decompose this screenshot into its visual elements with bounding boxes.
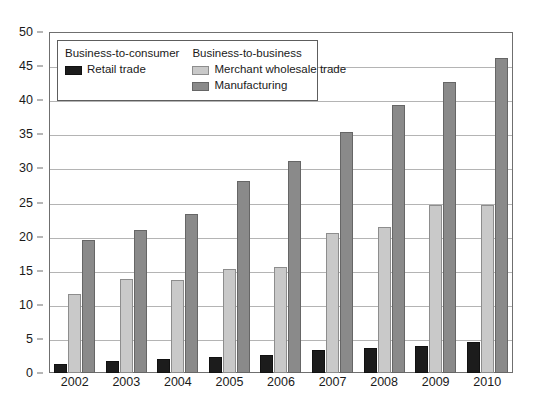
legend-column-2: Business-to-businessMerchant wholesale t… <box>192 46 346 96</box>
y-tick-label: 10 <box>19 299 33 312</box>
bar-group-2009 <box>410 32 462 373</box>
bar-manufacturing <box>392 105 405 373</box>
retail-swatch-icon <box>65 66 82 75</box>
x-tick-label: 2004 <box>164 376 192 389</box>
legend-heading: Business-to-business <box>192 46 346 60</box>
bar-merchant-wholesale-trade <box>120 279 133 373</box>
bar-manufacturing <box>134 230 147 373</box>
bar-merchant-wholesale-trade <box>223 269 236 373</box>
y-tick-label: 40 <box>19 94 33 107</box>
y-tick-mark <box>37 373 43 374</box>
bar-chart-figure: 05101520253035404550 2002200320042005200… <box>0 0 536 420</box>
bar-retail-trade <box>415 346 428 373</box>
bar-manufacturing <box>443 82 456 373</box>
bar-retail-trade <box>54 364 67 373</box>
bar-group-2008 <box>358 32 410 373</box>
y-tick-label: 0 <box>26 367 33 380</box>
bar-merchant-wholesale-trade <box>326 233 339 373</box>
x-tick-label: 2005 <box>216 376 244 389</box>
bar-retail-trade <box>209 357 222 373</box>
y-tick-label: 30 <box>19 162 33 175</box>
legend-label: Retail trade <box>87 63 146 77</box>
x-tick-label: 2007 <box>319 376 347 389</box>
bar-retail-trade <box>260 355 273 373</box>
y-tick-label: 45 <box>19 60 33 73</box>
bar-retail-trade <box>312 350 325 373</box>
y-tick-mark <box>37 32 43 33</box>
bar-manufacturing <box>185 214 198 373</box>
bar-merchant-wholesale-trade <box>171 280 184 373</box>
y-tick-label: 35 <box>19 128 33 141</box>
bar-merchant-wholesale-trade <box>378 227 391 373</box>
x-tick-label: 2009 <box>422 376 450 389</box>
y-tick-label: 15 <box>19 264 33 277</box>
y-tick-mark <box>37 338 43 339</box>
x-tick-label: 2008 <box>370 376 398 389</box>
y-tick-label: 25 <box>19 196 33 209</box>
y-tick-mark <box>37 168 43 169</box>
bar-manufacturing <box>495 58 508 373</box>
y-tick-mark <box>37 134 43 135</box>
bar-merchant-wholesale-trade <box>274 267 287 373</box>
bar-retail-trade <box>364 348 377 373</box>
wholesale-swatch-icon <box>192 66 209 75</box>
x-tick-label: 2002 <box>61 376 89 389</box>
x-tick-label: 2006 <box>267 376 295 389</box>
legend-entry[interactable]: Retail trade <box>65 62 179 78</box>
y-axis: 05101520253035404550 <box>0 32 43 373</box>
y-tick-mark <box>37 304 43 305</box>
y-tick-mark <box>37 66 43 67</box>
bar-manufacturing <box>237 181 250 373</box>
x-axis: 200220032004200520062007200820092010 <box>49 376 513 398</box>
legend-column-1: Business-to-consumerRetail trade <box>65 46 179 96</box>
legend-label: Merchant wholesale trade <box>214 63 346 77</box>
y-tick-mark <box>37 236 43 237</box>
legend-label: Manufacturing <box>214 79 287 93</box>
y-tick-label: 20 <box>19 230 33 243</box>
y-tick-mark <box>37 100 43 101</box>
legend-heading: Business-to-consumer <box>65 46 179 60</box>
manufacturing-swatch-icon <box>192 82 209 91</box>
bar-merchant-wholesale-trade <box>429 205 442 373</box>
bar-retail-trade <box>467 342 480 373</box>
y-tick-label: 50 <box>19 26 33 39</box>
y-tick-label: 5 <box>26 333 33 346</box>
chart-legend: Business-to-consumerRetail tradeBusiness… <box>57 40 318 101</box>
legend-entry[interactable]: Manufacturing <box>192 78 346 94</box>
bar-merchant-wholesale-trade <box>481 205 494 373</box>
bar-manufacturing <box>288 161 301 373</box>
x-tick-label: 2010 <box>473 376 501 389</box>
legend-entry[interactable]: Merchant wholesale trade <box>192 62 346 78</box>
bar-retail-trade <box>157 359 170 373</box>
bar-manufacturing <box>340 132 353 373</box>
bar-merchant-wholesale-trade <box>68 294 81 373</box>
y-tick-mark <box>37 270 43 271</box>
bar-retail-trade <box>106 361 119 373</box>
y-tick-mark <box>37 202 43 203</box>
bar-manufacturing <box>82 240 95 373</box>
x-tick-label: 2003 <box>112 376 140 389</box>
bar-group-2010 <box>461 32 513 373</box>
